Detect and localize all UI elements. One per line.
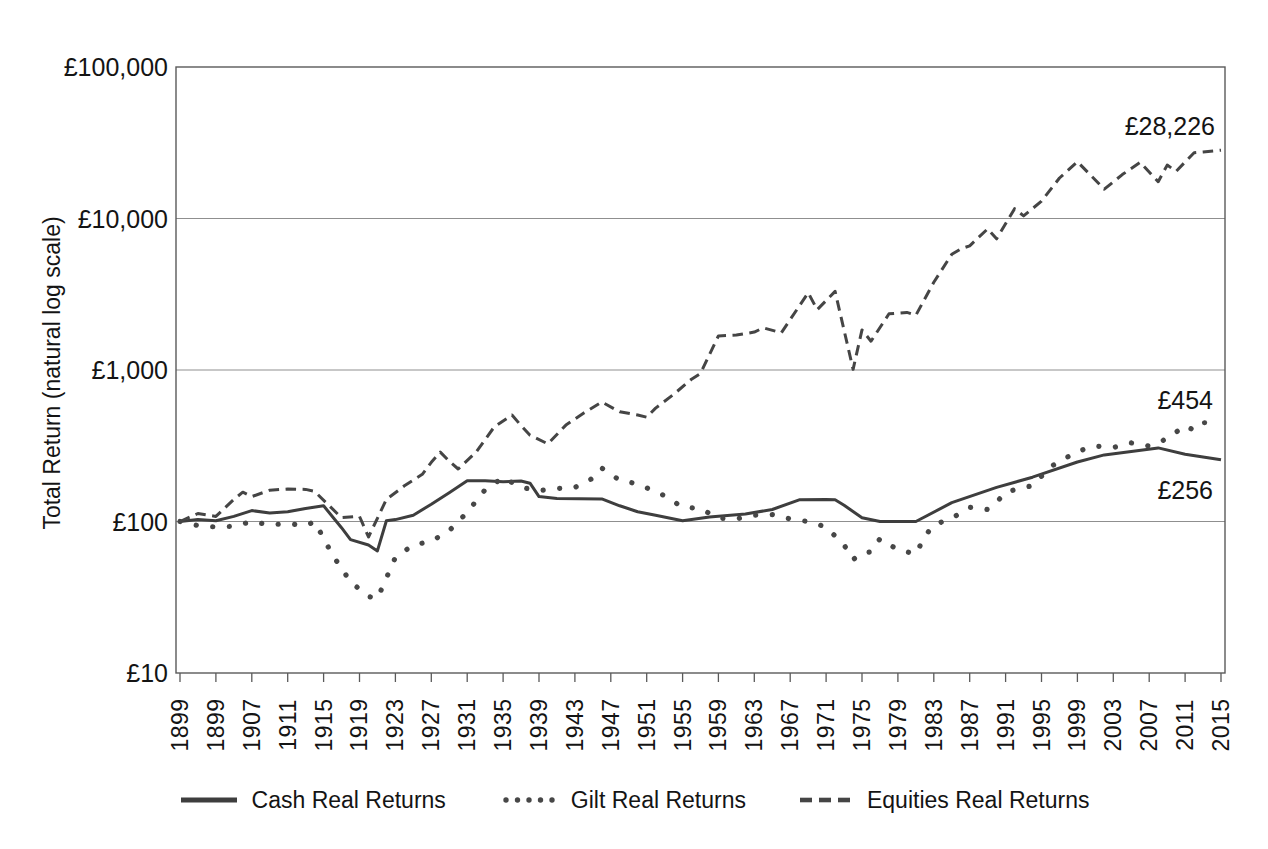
x-tick-label: 1955 xyxy=(671,688,695,762)
legend-item-gilt: Gilt Real Returns xyxy=(500,787,746,814)
chart-legend: Cash Real Returns Gilt Real Returns Equi… xyxy=(0,783,1268,817)
x-tick-label: 2007 xyxy=(1137,688,1161,762)
x-tick-label: 1959 xyxy=(706,688,730,762)
x-tick-label: 1915 xyxy=(312,688,336,762)
x-tick-label: 1935 xyxy=(491,688,515,762)
x-tick-label: 1995 xyxy=(1030,688,1054,762)
x-tick-label: 1991 xyxy=(994,688,1018,762)
x-tick-label: 1983 xyxy=(922,688,946,762)
dashed-line-swatch-icon xyxy=(800,795,854,805)
x-tick-label: 1963 xyxy=(742,688,766,762)
legend-label-gilt: Gilt Real Returns xyxy=(571,787,746,814)
x-tick-label: 1919 xyxy=(347,688,371,762)
x-tick-label: 1975 xyxy=(850,688,874,762)
equities-end-value-annotation: £28,226 xyxy=(1035,112,1215,141)
x-tick-label: 1947 xyxy=(599,688,623,762)
x-tick-label: 1927 xyxy=(419,688,443,762)
x-tick-label: 1911 xyxy=(276,688,300,762)
x-tick-label: 1899 xyxy=(168,688,192,762)
x-tick-label: 1971 xyxy=(814,688,838,762)
x-tick-label: 1939 xyxy=(527,688,551,762)
y-tick-label: £10,000 xyxy=(6,205,168,233)
x-tick-label: 2011 xyxy=(1173,688,1197,762)
solid-line-swatch-icon xyxy=(179,795,239,805)
x-tick-label: 2015 xyxy=(1209,688,1233,762)
x-tick-label: 1943 xyxy=(563,688,587,762)
x-tick-label: 1951 xyxy=(635,688,659,762)
cash-end-value-annotation: £256 xyxy=(1063,476,1213,505)
dotted-line-swatch-icon xyxy=(500,795,558,805)
x-tick-label: 1923 xyxy=(383,688,407,762)
legend-label-equities: Equities Real Returns xyxy=(867,787,1089,814)
y-tick-label: £10 xyxy=(6,659,168,687)
y-tick-label: £100,000 xyxy=(6,53,168,81)
x-tick-label: 1907 xyxy=(240,688,264,762)
x-tick-label: 1967 xyxy=(778,688,802,762)
y-tick-label: £1,000 xyxy=(6,356,168,384)
x-tick-label: 1931 xyxy=(455,688,479,762)
gilt-end-value-annotation: £454 xyxy=(1063,386,1213,415)
x-tick-label: 2003 xyxy=(1101,688,1125,762)
x-tick-label: 1999 xyxy=(1065,688,1089,762)
legend-item-cash: Cash Real Returns xyxy=(179,787,446,814)
legend-label-cash: Cash Real Returns xyxy=(252,787,446,814)
x-tick-label: 1987 xyxy=(958,688,982,762)
total-return-chart: Total Return (natural log scale) £28,226… xyxy=(0,0,1268,849)
x-tick-label: 1899 xyxy=(204,688,228,762)
y-tick-label: £100 xyxy=(6,508,168,536)
x-tick-label: 1979 xyxy=(886,688,910,762)
legend-item-equities: Equities Real Returns xyxy=(800,787,1089,814)
series-line-dotted xyxy=(180,422,1221,599)
